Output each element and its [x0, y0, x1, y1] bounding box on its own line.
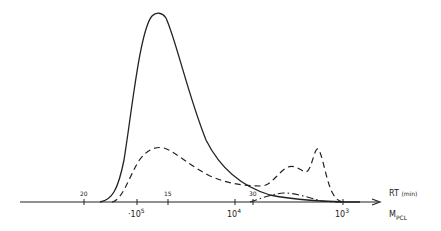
solid-curve: [100, 13, 360, 202]
bottom-tick-label-1e4: 104: [227, 207, 241, 219]
dash-dot-curve: [250, 193, 344, 202]
chromatogram-plot: [0, 0, 441, 231]
rt-axis-label: RT (min): [389, 189, 417, 198]
top-tick-label-20: 20: [80, 190, 88, 197]
top-tick-label-30: 30: [249, 190, 257, 197]
bottom-tick-label-1e5: ·105: [128, 207, 145, 219]
bottom-tick-label-1e3: 103: [335, 207, 349, 219]
top-tick-label-15: 15: [164, 190, 172, 197]
m-axis-label: MPCL: [389, 210, 407, 221]
dashed-curve: [112, 148, 345, 202]
